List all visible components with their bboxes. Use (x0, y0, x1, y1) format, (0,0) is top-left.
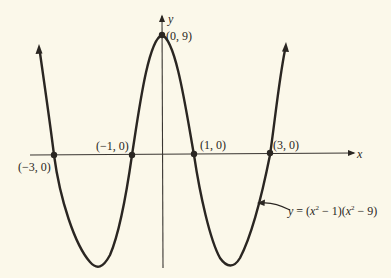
point-neg1-label: (−1, 0) (96, 140, 129, 152)
equation-mid: − 1)( (319, 204, 346, 218)
point-pos1-label: (1, 0) (200, 139, 226, 151)
point-pos3-label: (3, 0) (273, 139, 299, 151)
equation-label: y = (x2 − 1)(x2 − 9) (288, 205, 377, 217)
equation-eq: = ( (293, 204, 310, 218)
equation-end: − 9) (355, 204, 378, 218)
point-neg1 (129, 152, 135, 158)
point-neg3-label: (−3, 0) (18, 161, 51, 173)
curve-left-arrow-icon (36, 44, 43, 54)
function-graph (0, 0, 391, 278)
point-peak-label: (0, 9) (166, 30, 192, 42)
point-pos1 (191, 151, 197, 157)
y-axis-label: y (168, 13, 173, 25)
point-neg3 (51, 152, 57, 158)
curve-right-arrow-icon (282, 42, 289, 52)
x-axis-label: x (357, 148, 362, 160)
point-peak (159, 32, 165, 38)
y-axis (162, 16, 163, 268)
callout-arrow-line (262, 203, 290, 210)
